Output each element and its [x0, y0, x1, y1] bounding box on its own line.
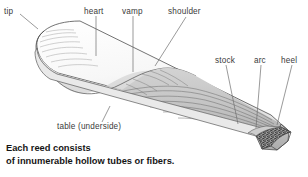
- label-arc: arc: [254, 57, 266, 65]
- label-table: table (underside): [57, 123, 121, 131]
- leader-shoulder: [155, 17, 186, 66]
- label-heel: heel: [281, 57, 297, 65]
- leader-tip: [20, 14, 38, 29]
- label-vamp: vamp: [122, 8, 143, 16]
- label-heart: heart: [84, 8, 103, 16]
- label-tip: tip: [4, 8, 13, 16]
- caption-line-2: of innumerable hollow tubes or fibers.: [6, 155, 174, 168]
- leader-table: [102, 106, 110, 122]
- leader-heel: [277, 65, 292, 125]
- caption-line-1: Each reed consists: [6, 142, 174, 155]
- figure-caption: Each reed consists of innumerable hollow…: [6, 142, 174, 168]
- label-shoulder: shoulder: [168, 8, 201, 16]
- reed-anatomy-figure: tip heart vamp shoulder stock arc heel t…: [0, 0, 308, 177]
- label-stock: stock: [215, 57, 235, 65]
